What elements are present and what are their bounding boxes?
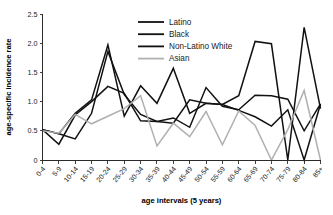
x-tick-label: 25-29 — [111, 165, 128, 183]
legend-label-latino: Latino — [169, 18, 192, 27]
x-tick-label: 55-59 — [209, 165, 226, 183]
x-tick-label: 15-19 — [79, 165, 96, 183]
x-tick-label: 40-44 — [160, 165, 177, 183]
chart-container: 00.51.01.52.02.5 0-45-910-1415-1920-2425… — [0, 0, 333, 215]
y-tick-label: 2.5 — [28, 10, 38, 19]
x-tick-label: 80-84 — [291, 165, 308, 183]
x-tick-label: 30-34 — [128, 165, 145, 183]
y-tick-label: 0 — [34, 156, 38, 165]
x-tick-label: 5-9 — [51, 165, 63, 177]
x-tick-label: 65-69 — [242, 165, 259, 183]
x-tick-label: 60-64 — [226, 165, 243, 183]
legend-label-non-latino-white: Non-Latino White — [169, 42, 233, 51]
x-tick-label: 10-14 — [62, 165, 79, 183]
legend-label-asian: Asian — [169, 54, 190, 63]
y-tick-label: 1.0 — [28, 97, 38, 106]
x-axis-title: age intervals (5 years) — [142, 196, 222, 205]
chart-legend: LatinoBlackNon-Latino WhiteAsian — [138, 18, 233, 64]
x-tick-label: 50-54 — [193, 165, 210, 183]
x-tick-label: 35-39 — [144, 165, 161, 183]
x-tick-label: 0-4 — [35, 165, 47, 177]
legend-label-black: Black — [169, 30, 190, 39]
x-tick-label: 20-24 — [95, 165, 112, 183]
y-tick-label: 1.5 — [28, 68, 38, 77]
x-tick-label: 75-79 — [275, 165, 292, 183]
incidence-rate-line-chart: 00.51.01.52.02.5 0-45-910-1415-1920-2425… — [0, 0, 333, 215]
x-tick-label: 45-49 — [177, 165, 194, 183]
y-axis-title: age-specific incidence rate — [4, 38, 13, 135]
y-axis-tick-group: 00.51.01.52.02.5 — [28, 10, 43, 165]
x-tick-label: 85+ — [311, 165, 324, 179]
y-tick-label: 0.5 — [28, 126, 38, 135]
x-axis-tick-group: 0-45-910-1415-1920-2425-2930-3435-3940-4… — [35, 160, 325, 183]
x-tick-label: 70-74 — [259, 165, 276, 183]
y-tick-label: 2.0 — [28, 39, 38, 48]
